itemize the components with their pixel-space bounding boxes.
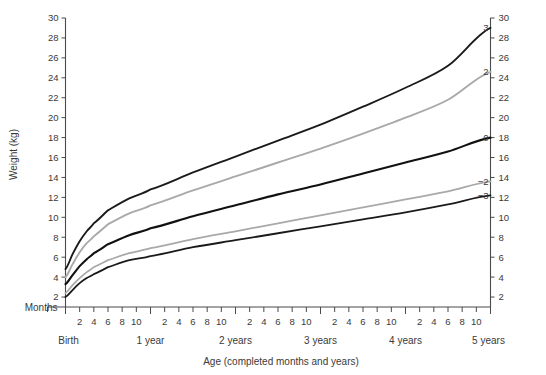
x-tick-label: 6	[275, 316, 280, 327]
y-tick-label-left: 24	[48, 72, 59, 83]
x-group-label: 1 year	[137, 335, 165, 346]
y-tick-label-right: 28	[499, 32, 510, 43]
x-tick-label: 8	[290, 316, 295, 327]
y-tick-label-left: 12	[48, 192, 59, 203]
x-tick-label: 10	[471, 316, 482, 327]
y-tick-label-right: 2	[499, 291, 504, 302]
y-tick-label-right: 22	[499, 92, 510, 103]
x-group-label: Birth	[58, 335, 79, 346]
y-tick-label-left: 8	[53, 232, 58, 243]
curve-label: 0	[483, 132, 488, 143]
x-tick-label: 4	[431, 316, 436, 327]
curve-group: 3	[66, 22, 491, 269]
y-tick-label-right: 12	[499, 192, 510, 203]
y-tick-label-left: 4	[53, 272, 58, 283]
chart-canvas: 2468101214161820222426283024681012141618…	[0, 0, 546, 375]
x-tick-label: 6	[190, 316, 195, 327]
y-tick-label-right: 20	[499, 112, 510, 123]
months-axis-label: Months	[25, 302, 58, 313]
x-tick-label: 8	[375, 316, 380, 327]
x-tick-label: 2	[332, 316, 337, 327]
sd-curve	[66, 195, 491, 297]
x-group-label: 4 years	[389, 335, 422, 346]
curve-label: 3	[483, 22, 488, 33]
y-tick-label-left: 16	[48, 152, 59, 163]
x-tick-label: 8	[205, 316, 210, 327]
y-axis-title: Weight (kg)	[8, 129, 19, 180]
x-tick-label: 2	[162, 316, 167, 327]
x-tick-label: 4	[176, 316, 181, 327]
x-tick-label: 2	[417, 316, 422, 327]
curve-label: −3	[478, 190, 489, 201]
x-tick-label: 4	[346, 316, 351, 327]
curve-label: −2	[478, 176, 489, 187]
y-tick-label-right: 6	[499, 252, 504, 263]
x-axis-title: Age (completed months and years)	[203, 356, 359, 367]
y-tick-label-right: 10	[499, 212, 510, 223]
y-tick-label-right: 14	[499, 172, 510, 183]
y-tick-label-right: 4	[499, 272, 504, 283]
y-tick-label-left: 20	[48, 112, 59, 123]
y-tick-label-left: 14	[48, 172, 59, 183]
x-tick-label: 4	[91, 316, 96, 327]
x-tick-label: 10	[131, 316, 142, 327]
growth-chart: 2468101214161820222426283024681012141618…	[0, 0, 546, 375]
x-tick-label: 6	[360, 316, 365, 327]
y-tick-label-right: 26	[499, 52, 510, 63]
y-tick-label-right: 30	[499, 12, 510, 23]
curve-label: 2	[483, 66, 488, 77]
x-tick-label: 10	[301, 316, 312, 327]
x-tick-label: 8	[120, 316, 125, 327]
x-tick-label: 2	[77, 316, 82, 327]
y-tick-label-left: 22	[48, 92, 59, 103]
y-tick-label-left: 26	[48, 52, 59, 63]
x-tick-label: 6	[445, 316, 450, 327]
sd-curve	[66, 138, 491, 284]
x-group-label: 5 years	[472, 335, 505, 346]
y-tick-label-right: 8	[499, 232, 504, 243]
y-tick-label-left: 30	[48, 12, 59, 23]
y-tick-label-left: 10	[48, 212, 59, 223]
x-tick-label: 8	[460, 316, 465, 327]
x-tick-label: 10	[386, 316, 397, 327]
y-tick-label-left: 18	[48, 132, 59, 143]
x-tick-label: 10	[216, 316, 227, 327]
y-tick-label-right: 16	[499, 152, 510, 163]
x-tick-label: 6	[105, 316, 110, 327]
x-tick-label: 4	[261, 316, 266, 327]
sd-curve	[66, 72, 491, 277]
x-tick-label: 2	[247, 316, 252, 327]
curve-group: 2	[66, 66, 491, 277]
x-group-label: 3 years	[304, 335, 337, 346]
x-group-label: 2 years	[219, 335, 252, 346]
curve-group: −3	[66, 190, 491, 297]
y-tick-label-right: 18	[499, 132, 510, 143]
y-tick-label-left: 6	[53, 252, 58, 263]
y-tick-label-right: 24	[499, 72, 510, 83]
y-tick-label-left: 28	[48, 32, 59, 43]
